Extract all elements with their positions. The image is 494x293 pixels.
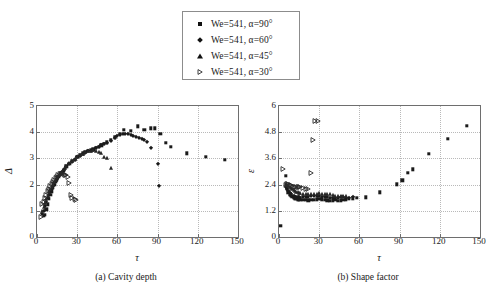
gridline-vertical [440,106,441,237]
y-tick [279,132,282,133]
open-triangle-right-glyph [197,69,203,75]
x-tick-label: 60 [112,236,121,246]
y-tick [279,211,282,212]
data-point [395,182,398,185]
data-point [378,191,381,194]
data-point [315,118,321,124]
data-point [149,146,154,151]
y-tick-label: 1 [8,205,34,215]
gridline-vertical [198,106,199,237]
x-tick-label: 30 [72,236,81,246]
data-point [66,180,72,186]
data-point [73,197,79,203]
data-point [65,174,71,180]
gridline-vertical [319,106,320,237]
data-point [280,166,286,172]
legend-item-label: We=541, α=60° [211,32,273,48]
filled-diamond-icon [192,32,208,48]
x-axis-title-a: τ [135,252,139,263]
y-tick [279,185,282,186]
data-point [142,128,145,131]
data-point [446,137,449,140]
legend-item: We=541, α=45° [183,48,299,64]
legend-item: We=541, α=60° [183,32,299,48]
data-point [305,186,311,192]
data-point [145,140,150,145]
data-point [38,214,44,220]
data-point [185,151,188,154]
plot-area-b [278,105,481,238]
plot-area-a [36,105,239,238]
legend-item: We=541, α=90° [183,16,299,32]
x-tick-label: 90 [152,236,161,246]
legend-item-label: We=541, α=30° [211,64,273,80]
x-tick-label: 60 [354,236,363,246]
chart-panel-b: ε 01.22.43.64.86 0306090120150 τ (b) Sha… [248,100,488,293]
data-point [308,170,314,176]
y-tick [37,185,40,186]
legend-item-label: We=541, α=90° [211,16,273,32]
data-point [223,158,226,161]
y-tick [279,158,282,159]
data-point [157,184,162,189]
data-point [105,156,109,160]
gridline-horizontal [279,158,480,159]
chart-panel-a: Δ 012345 0306090120150 τ (a) Cavity dept… [6,100,246,293]
gridline-horizontal [37,211,238,212]
data-point [344,194,348,198]
gridline-horizontal [37,158,238,159]
x-tick-label: 150 [230,236,244,246]
data-point [149,127,152,130]
data-point [40,209,44,213]
data-point [427,152,430,155]
data-point [159,132,162,135]
gridline-vertical [117,106,118,237]
x-tick-label: 30 [314,236,323,246]
y-tick [37,158,40,159]
gridline-vertical [400,106,401,237]
data-point [364,196,367,199]
x-tick-label: 120 [190,236,204,246]
y-tick-label: 2.4 [250,179,276,189]
y-tick-label: 4.8 [250,126,276,136]
x-tick-label: 0 [34,236,39,246]
y-tick-label: 2 [8,179,34,189]
y-tick-label: 0 [8,231,34,241]
y-tick-label: 4 [8,126,34,136]
y-tick-label: 3.6 [250,152,276,162]
y-tick-label: 5 [8,100,34,110]
filled-square-icon [192,16,208,32]
gridline-vertical [359,106,360,237]
caption-panel-b: (b) Shape factor [248,272,488,282]
x-tick-label: 120 [432,236,446,246]
data-point [279,224,282,227]
open-triangle-right-icon [192,64,208,80]
data-point [109,166,113,170]
legend-item-label: We=541, α=45° [211,48,273,64]
x-tick-label: 150 [472,236,486,246]
data-point [136,125,139,128]
y-tick [37,132,40,133]
gridline-horizontal [37,132,238,133]
gridline-horizontal [279,211,480,212]
data-point [164,141,167,144]
x-tick-label: 0 [276,236,281,246]
gridline-vertical [158,106,159,237]
data-point [108,138,113,143]
legend-box: We=541, α=90° We=541, α=60° We=541, α=45… [182,11,300,80]
legend-item: We=541, α=30° [183,64,299,80]
data-point [411,168,414,171]
y-tick-label: 3 [8,152,34,162]
data-point [169,145,172,148]
x-axis-title-b: τ [377,252,381,263]
y-tick-label: 1.2 [250,205,276,215]
data-point [310,137,316,143]
data-point [204,155,207,158]
y-tick-label: 6 [250,100,276,110]
data-point [401,179,404,182]
data-point [153,127,156,130]
y-tick-label: 0 [250,231,276,241]
data-point [406,171,409,174]
data-point [155,162,160,167]
y-axis-tick-labels-a: 012345 [6,105,34,238]
